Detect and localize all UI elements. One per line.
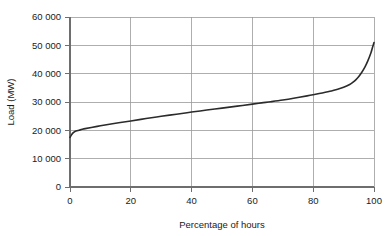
chart-figure: 010 00020 00030 00040 00050 00060 000 02… [0, 0, 388, 236]
y-tick-label: 60 000 [32, 11, 61, 22]
y-tick-label: 50 000 [32, 40, 61, 51]
x-tick-label: 80 [308, 195, 319, 206]
load-duration-chart: 010 00020 00030 00040 00050 00060 000 02… [0, 0, 388, 236]
y-tick-label: 40 000 [32, 68, 61, 79]
y-tick-label: 20 000 [32, 125, 61, 136]
y-axis-title: Load (MW) [5, 79, 16, 126]
x-axis-title: Percentage of hours [179, 219, 265, 230]
x-tick-label: 20 [126, 195, 137, 206]
y-tick-label: 30 000 [32, 96, 61, 107]
y-tick-label: 0 [56, 181, 61, 192]
x-tick-label: 60 [247, 195, 258, 206]
x-tick-label: 0 [67, 195, 72, 206]
y-tick-label: 10 000 [32, 153, 61, 164]
x-tick-label: 40 [186, 195, 197, 206]
x-tick-label: 100 [366, 195, 382, 206]
